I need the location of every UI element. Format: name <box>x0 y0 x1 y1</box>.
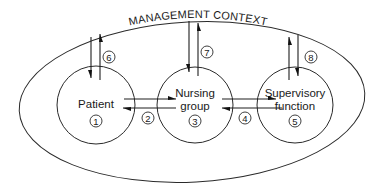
connection-number-7: 7 <box>201 46 213 58</box>
svg-text:6: 6 <box>106 52 111 63</box>
nursing-group-label-line1: Nursing <box>175 87 215 99</box>
svg-text:1: 1 <box>93 116 98 127</box>
management-context-diagram: MANAGEMENT CONTEXT Patient Nursing group… <box>0 0 387 196</box>
svg-text:7: 7 <box>204 47 209 58</box>
supervisory-function-label-line1: Supervisory <box>265 87 326 99</box>
connection-2: 2 <box>123 96 176 124</box>
connection-number-6: 6 <box>103 51 115 63</box>
svg-text:2: 2 <box>145 113 150 124</box>
node-number-3: 3 <box>189 115 201 127</box>
connection-4: 4 <box>222 96 282 124</box>
svg-text:4: 4 <box>242 113 247 124</box>
svg-text:8: 8 <box>308 52 313 63</box>
svg-text:5: 5 <box>292 116 297 127</box>
node-number-1: 1 <box>90 115 102 127</box>
svg-text:3: 3 <box>192 116 197 127</box>
patient-label: Patient <box>78 98 115 110</box>
node-number-5: 5 <box>289 115 301 127</box>
connection-number-2: 2 <box>142 112 154 124</box>
connection-number-8: 8 <box>305 51 317 63</box>
connection-number-4: 4 <box>239 112 251 124</box>
nursing-group-label-line2: group <box>180 100 209 112</box>
connection-8: 8 <box>288 35 317 80</box>
supervisory-function-label-line2: function <box>275 100 315 112</box>
